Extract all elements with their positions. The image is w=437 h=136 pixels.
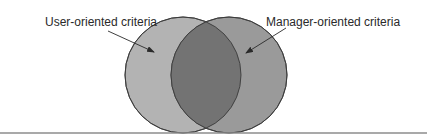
manager-oriented-label: Manager-oriented criteria (266, 15, 400, 29)
user-oriented-label: User-oriented criteria (45, 15, 157, 29)
